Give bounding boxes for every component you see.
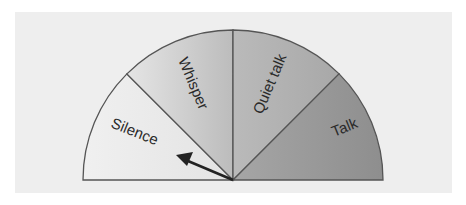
gauge-svg: Silence Whisper Quiet talk Talk [0,0,466,205]
voice-level-diagram: Silence Whisper Quiet talk Talk [0,0,466,205]
